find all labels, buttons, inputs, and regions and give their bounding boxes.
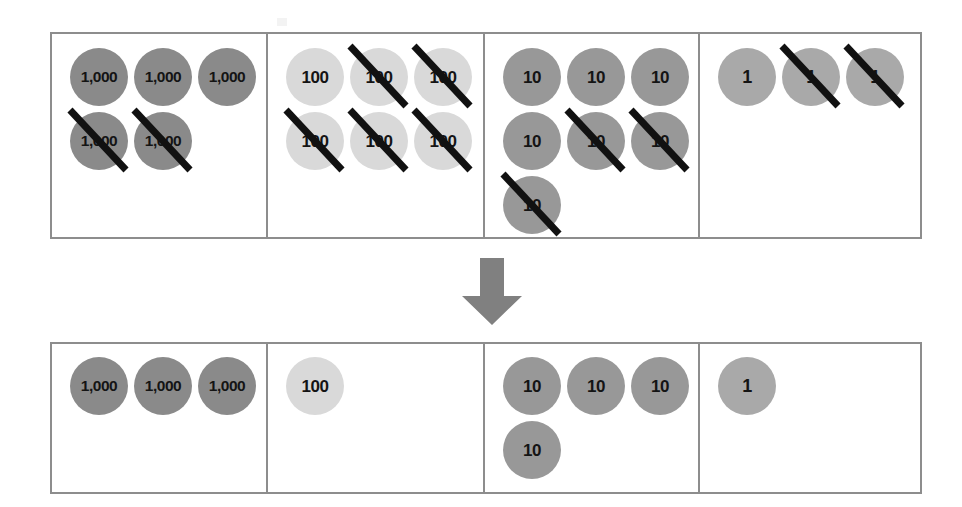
place-column-hundreds: 100100100100100100 — [268, 34, 485, 237]
place-disc-label: 10 — [523, 133, 541, 150]
disc-group-tens: 10101010101010 — [503, 48, 692, 233]
place-disc-crossed[interactable]: 100 — [350, 112, 408, 170]
place-disc[interactable]: 1,000 — [198, 357, 256, 415]
place-column-tens: 10101010101010 — [485, 34, 700, 237]
place-disc-label: 100 — [366, 133, 393, 150]
place-disc-label: 1,000 — [145, 378, 181, 394]
place-disc-label: 10 — [651, 133, 669, 150]
place-disc[interactable]: 1 — [718, 48, 776, 106]
place-disc[interactable]: 10 — [503, 112, 561, 170]
place-disc-label: 10 — [587, 133, 605, 150]
disc-group-tens: 10101010 — [503, 357, 692, 488]
place-disc[interactable]: 10 — [503, 48, 561, 106]
place-disc-crossed[interactable]: 1 — [846, 48, 904, 106]
place-column-thousands: 1,0001,0001,0001,0001,000 — [52, 34, 268, 237]
place-disc-label: 1,000 — [209, 69, 245, 85]
place-disc-label: 10 — [523, 197, 541, 214]
place-disc-label: 10 — [651, 378, 669, 395]
place-column-tens: 10101010 — [485, 344, 700, 492]
place-disc-label: 1,000 — [145, 133, 181, 149]
place-disc[interactable]: 10 — [631, 357, 689, 415]
place-disc-label: 10 — [587, 378, 605, 395]
place-disc-label: 1,000 — [81, 378, 117, 394]
place-disc-label: 1,000 — [81, 133, 117, 149]
place-disc-crossed[interactable]: 1,000 — [70, 112, 128, 170]
place-disc-label: 1,000 — [145, 69, 181, 85]
place-disc-crossed[interactable]: 10 — [567, 112, 625, 170]
place-disc-crossed[interactable]: 100 — [414, 48, 472, 106]
place-disc[interactable]: 10 — [567, 357, 625, 415]
place-disc[interactable]: 100 — [286, 357, 344, 415]
place-disc-label: 1,000 — [81, 69, 117, 85]
place-disc[interactable]: 10 — [567, 48, 625, 106]
disc-group-ones: 111 — [718, 48, 914, 233]
place-disc-label: 100 — [302, 133, 329, 150]
place-column-ones: 111 — [700, 34, 920, 237]
result-amount-table: 1,0001,0001,000100101010101 — [50, 342, 922, 494]
place-disc[interactable]: 1,000 — [134, 48, 192, 106]
disc-group-thousands: 1,0001,0001,0001,0001,000 — [70, 48, 260, 233]
disc-group-hundreds: 100 — [286, 357, 477, 488]
place-disc-label: 10 — [523, 69, 541, 86]
place-disc-label: 1,000 — [209, 378, 245, 394]
place-disc[interactable]: 10 — [503, 357, 561, 415]
place-disc-label: 100 — [366, 69, 393, 86]
place-disc[interactable]: 1 — [718, 357, 776, 415]
place-disc-label: 100 — [430, 133, 457, 150]
scan-artifact — [277, 18, 287, 26]
disc-group-hundreds: 100100100100100100 — [286, 48, 477, 233]
place-disc-label: 1 — [870, 68, 880, 86]
place-disc[interactable]: 10 — [631, 48, 689, 106]
place-column-thousands: 1,0001,0001,000 — [52, 344, 268, 492]
place-disc-label: 1 — [742, 68, 752, 86]
place-disc[interactable]: 1,000 — [70, 48, 128, 106]
place-disc-crossed[interactable]: 10 — [631, 112, 689, 170]
place-value-diagram: 1,0001,0001,0001,0001,000100100100100100… — [0, 0, 962, 507]
place-disc-label: 10 — [587, 69, 605, 86]
place-disc-label: 100 — [302, 378, 329, 395]
place-disc[interactable]: 100 — [286, 48, 344, 106]
place-disc[interactable]: 1,000 — [198, 48, 256, 106]
place-disc-crossed[interactable]: 100 — [414, 112, 472, 170]
place-disc[interactable]: 10 — [503, 421, 561, 479]
place-disc[interactable]: 1,000 — [70, 357, 128, 415]
starting-amount-table: 1,0001,0001,0001,0001,000100100100100100… — [50, 32, 922, 239]
place-disc-crossed[interactable]: 100 — [350, 48, 408, 106]
place-disc[interactable]: 1,000 — [134, 357, 192, 415]
disc-group-ones: 1 — [718, 357, 914, 488]
place-disc-label: 1 — [742, 377, 752, 395]
place-disc-label: 100 — [430, 69, 457, 86]
arrow-down-icon — [460, 258, 524, 326]
place-disc-label: 10 — [523, 442, 541, 459]
place-column-ones: 1 — [700, 344, 920, 492]
disc-group-thousands: 1,0001,0001,000 — [70, 357, 260, 488]
place-disc-label: 10 — [651, 69, 669, 86]
place-disc-crossed[interactable]: 100 — [286, 112, 344, 170]
place-column-hundreds: 100 — [268, 344, 485, 492]
place-disc-label: 100 — [302, 69, 329, 86]
place-disc-crossed[interactable]: 1 — [782, 48, 840, 106]
place-disc-label: 1 — [806, 68, 816, 86]
place-disc-crossed[interactable]: 1,000 — [134, 112, 192, 170]
place-disc-label: 10 — [523, 378, 541, 395]
place-disc-crossed[interactable]: 10 — [503, 176, 561, 234]
